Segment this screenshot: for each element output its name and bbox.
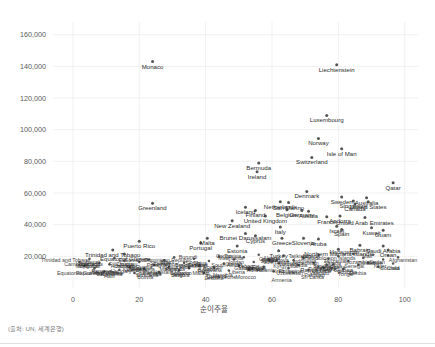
point-label: Greenland	[138, 204, 166, 211]
point-label: Turkey	[269, 252, 288, 259]
cluster-label: Burundi	[179, 254, 198, 260]
point-label: New Zealand	[214, 222, 250, 229]
cluster-label: Haiti	[104, 273, 115, 279]
chart-background	[0, 0, 435, 347]
point-label: Estonia	[227, 247, 248, 254]
cluster-label: Benin	[171, 272, 185, 278]
y-tick-100000: 100,000	[20, 125, 46, 134]
x-tick-0: 0	[71, 295, 75, 304]
point-label: Denmark	[294, 192, 320, 199]
point-label: Switzerland	[296, 158, 328, 165]
source-note: (출처: UN, 세계은행)	[8, 325, 64, 333]
cluster-label: Cuba	[149, 271, 162, 277]
point-label: Liechtenstein	[319, 66, 355, 73]
point-label: Puerto Rico	[123, 242, 155, 249]
y-tick-140000: 140,000	[20, 62, 46, 71]
cluster-label: Sierra Leone	[205, 274, 236, 280]
cluster-label: Yemen	[245, 267, 262, 273]
point-label: Italy	[275, 228, 287, 235]
point-label: Canada	[344, 205, 366, 212]
y-tick-160000: 160,000	[20, 30, 46, 39]
point-label: Spain	[334, 230, 350, 237]
point-label: Aruba	[310, 240, 327, 247]
x-tick-20: 20	[135, 295, 143, 304]
point-label: Austria	[299, 212, 319, 219]
y-tick-40000: 40,000	[24, 220, 46, 229]
cluster-point	[208, 260, 211, 263]
cluster-label: Somalia	[380, 265, 399, 271]
point-label: Ireland	[248, 173, 267, 180]
point-label: Cyprus	[246, 237, 265, 244]
y-tick-80000: 80,000	[24, 157, 46, 166]
x-tick-100: 100	[399, 295, 411, 304]
point-label: Equatorial Guinea	[100, 255, 149, 262]
point-label: United Arab Emirates	[336, 219, 394, 226]
cluster-label: Kyrgyzstan	[273, 263, 300, 269]
cluster-label: Mongolia	[76, 263, 98, 269]
point-label: Luxembourg	[310, 116, 344, 123]
point-label: Portugal	[189, 244, 212, 251]
y-tick-120000: 120,000	[20, 94, 46, 103]
point-label: San Marino	[273, 204, 305, 211]
point-label: Oman	[380, 251, 397, 258]
point-label: Monaco	[142, 63, 164, 70]
point-label: Northern Mariana Islands	[304, 250, 372, 257]
point-label: Norway	[308, 139, 330, 146]
point-label: Qatar	[385, 184, 400, 191]
x-tick-40: 40	[202, 295, 210, 304]
point-label: Bermuda	[246, 164, 271, 171]
x-axis-title: 순이주율	[200, 304, 228, 314]
cluster-label: Gabon	[203, 266, 219, 272]
point-label: Isle of Man	[327, 150, 357, 157]
x-tick-60: 60	[268, 295, 276, 304]
scatter-chart-container: 20,00040,00060,00080,000100,000120,00014…	[0, 0, 435, 347]
x-tick-80: 80	[334, 295, 342, 304]
point-label: Greece	[272, 239, 293, 246]
scatter-plot-svg: 20,00040,00060,00080,000100,000120,00014…	[0, 0, 435, 347]
point-label: Guam	[375, 231, 392, 238]
cluster-label: Mauritania	[218, 255, 243, 261]
cluster-label: Uzbekistan	[276, 270, 303, 276]
y-tick-60000: 60,000	[24, 189, 46, 198]
cluster-label: Armenia	[272, 277, 292, 283]
cluster-label: Papua New Guinea	[76, 270, 123, 276]
point-label: Papua New Guinea	[300, 266, 353, 273]
cluster-label: Rwanda	[165, 266, 185, 272]
point-label: United Kingdom	[244, 217, 287, 224]
